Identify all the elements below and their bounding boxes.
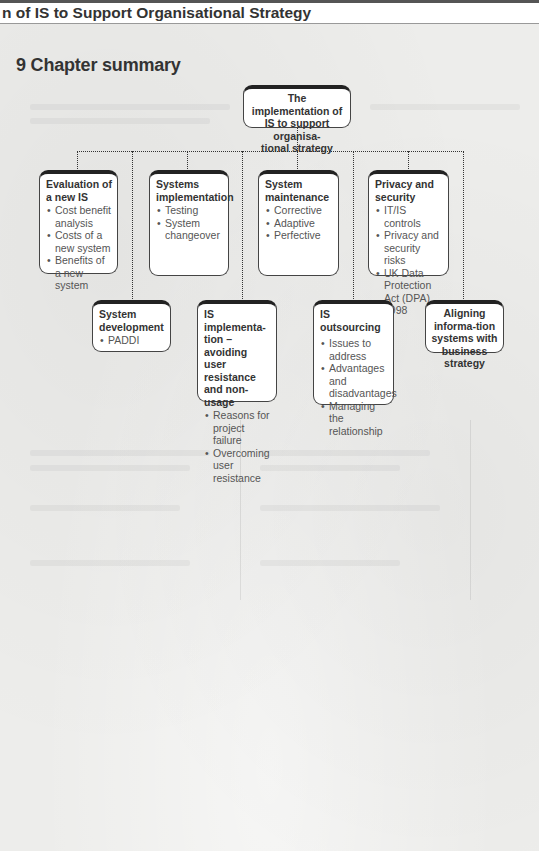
box-title: Aligning informa-tion systems with busin… bbox=[429, 307, 500, 370]
box-title: System development bbox=[99, 308, 165, 333]
box-title: Privacy and security bbox=[375, 178, 443, 203]
bullet-item: Corrective bbox=[265, 204, 333, 217]
bullet-item: Overcoming user resistance bbox=[204, 447, 271, 485]
ghost-text bbox=[30, 560, 190, 566]
bullet-list: Cost benefit analysis Costs of a new sys… bbox=[46, 204, 112, 292]
bullet-item: Advantages and disadvantages bbox=[320, 362, 388, 400]
bullet-list: Reasons for project failure Overcoming u… bbox=[204, 409, 271, 484]
box-privacy-security: Privacy and security IT/IS controls Priv… bbox=[368, 170, 449, 276]
root-title-line-3: tional strategy bbox=[248, 142, 346, 155]
bullet-item: PADDI bbox=[99, 334, 165, 347]
ghost-text bbox=[260, 450, 430, 456]
box-title: Systems implementation bbox=[156, 178, 223, 203]
bullet-item: IT/IS controls bbox=[375, 204, 443, 229]
bullet-item: Managing the relationship bbox=[320, 400, 388, 438]
bullet-item: Testing bbox=[156, 204, 223, 217]
box-evaluation-new-is: Evaluation of a new IS Cost benefit anal… bbox=[39, 170, 118, 274]
box-systems-implementation: Systems implementation Testing System ch… bbox=[149, 170, 229, 276]
ghost-text bbox=[30, 505, 180, 511]
root-title-line-2: IS to support organisa- bbox=[248, 117, 346, 142]
bullet-item: Privacy and security risks bbox=[375, 229, 443, 267]
connector-system-development bbox=[132, 151, 133, 301]
bullet-list: Testing System changeover bbox=[156, 204, 223, 242]
bullet-item: Reasons for project failure bbox=[204, 409, 271, 447]
connector-is-implementation bbox=[242, 151, 243, 301]
ghost-text bbox=[30, 465, 190, 471]
box-is-implementation: IS implementa-tion – avoiding user resis… bbox=[197, 300, 277, 402]
connector-privacy bbox=[408, 151, 409, 171]
ghost-text bbox=[260, 560, 400, 566]
box-system-maintenance: System maintenance Corrective Adaptive P… bbox=[258, 170, 339, 276]
connector-evaluation bbox=[77, 151, 78, 171]
running-head: n of IS to Support Organisational Strate… bbox=[0, 3, 539, 24]
bullet-item: Cost benefit analysis bbox=[46, 204, 112, 229]
box-aligning-is-business-strategy: Aligning informa-tion systems with busin… bbox=[425, 300, 504, 353]
bullet-item: Adaptive bbox=[265, 217, 333, 230]
root-title-line-1: The implementation of bbox=[248, 92, 346, 117]
ghost-text bbox=[260, 505, 440, 511]
ghost-text bbox=[30, 450, 210, 456]
box-title: IS outsourcing bbox=[320, 308, 388, 333]
bullet-item: Issues to address bbox=[320, 337, 388, 362]
bullet-list: Issues to address Advantages and disadva… bbox=[320, 337, 388, 437]
box-title: IS implementa-tion – avoiding user resis… bbox=[204, 308, 271, 408]
chapter-title: 9 Chapter summary bbox=[16, 55, 181, 76]
ghost-text bbox=[260, 465, 400, 471]
box-title: System maintenance bbox=[265, 178, 333, 203]
bullet-item: Benefits of a new system bbox=[46, 254, 112, 292]
box-system-development: System development PADDI bbox=[92, 300, 171, 352]
bullet-item: Perfective bbox=[265, 229, 333, 242]
connector-is-outsourcing bbox=[353, 151, 354, 301]
bullet-list: PADDI bbox=[99, 334, 165, 347]
connector-systems-implementation bbox=[187, 151, 188, 171]
bullet-item: System changeover bbox=[156, 217, 223, 242]
ghost-text bbox=[30, 104, 230, 110]
bullet-item: Costs of a new system bbox=[46, 229, 112, 254]
ghost-text bbox=[370, 104, 520, 110]
connector-aligning bbox=[463, 151, 464, 301]
bullet-list: Corrective Adaptive Perfective bbox=[265, 204, 333, 242]
ghost-text bbox=[30, 118, 210, 124]
ghost-line bbox=[470, 420, 471, 600]
box-title: Evaluation of a new IS bbox=[46, 178, 112, 203]
root-box: The implementation of IS to support orga… bbox=[243, 85, 351, 128]
box-is-outsourcing: IS outsourcing Issues to address Advanta… bbox=[313, 300, 394, 405]
